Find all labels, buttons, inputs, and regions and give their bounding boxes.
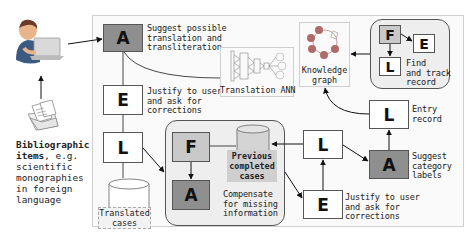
knowledge-graph-label: Knowledge graph	[299, 65, 350, 85]
node-letter: A	[116, 28, 129, 48]
node-letter: F	[185, 137, 197, 157]
node-a-compensate[interactable]: A	[172, 180, 210, 210]
node-letter: A	[184, 185, 197, 205]
node-letter: A	[382, 155, 395, 175]
node-letter: L	[318, 135, 329, 155]
neural-network-icon	[226, 49, 290, 83]
node-letter: L	[118, 138, 129, 158]
node-f-compensate[interactable]: F	[172, 132, 210, 162]
node-letter: E	[419, 36, 429, 52]
bibliographic-items-caption: Bibliographic items, e.g. scientific mon…	[16, 139, 89, 205]
node-letter: E	[117, 90, 129, 110]
node-f-find[interactable]: F	[379, 25, 401, 44]
node-letter: E	[317, 195, 329, 215]
label-entry-record: Entry record	[412, 105, 442, 124]
node-e-justify-right[interactable]: E	[303, 190, 343, 219]
node-a-suggest-translation[interactable]: A	[103, 24, 143, 52]
node-e-justify[interactable]: E	[103, 85, 143, 115]
node-l-left[interactable]: L	[103, 132, 143, 163]
node-l-mid[interactable]: L	[303, 130, 343, 159]
knowledge-graph-icon	[305, 25, 345, 61]
label-justify-left: Justify to user and ask for corrections	[147, 87, 222, 116]
label-compensate: Compensate for missing information	[223, 190, 278, 219]
node-letter: L	[384, 105, 395, 125]
node-l-entry[interactable]: L	[369, 100, 409, 129]
node-letter: F	[385, 27, 395, 43]
node-l-track[interactable]: L	[379, 57, 401, 76]
node-a-suggest-category[interactable]: A	[369, 150, 409, 179]
translated-cases-label: Translated cases	[98, 207, 151, 229]
label-suggest-category: Suggest category labels	[412, 152, 452, 181]
node-letter: L	[386, 59, 395, 75]
label-suggest-translation: Suggest possible translation and transli…	[147, 24, 227, 53]
user-with-laptop-icon	[12, 18, 68, 68]
translation-ann-label: Translation ANN	[220, 85, 294, 95]
documents-folder-icon	[26, 100, 60, 132]
label-justify-right: Justify to user and ask for corrections	[345, 193, 420, 222]
previous-cases-label: Previous completed cases	[227, 150, 277, 182]
node-e-track[interactable]: E	[413, 34, 435, 53]
label-find-track: Find and track record	[406, 59, 451, 88]
